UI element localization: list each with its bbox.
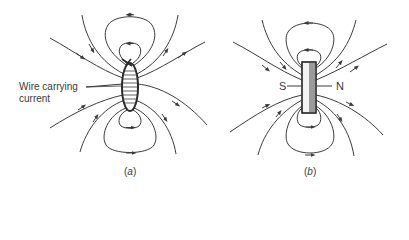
wire-label-line1: Wire carrying <box>19 81 78 93</box>
wire-label-line2: current <box>19 93 78 105</box>
caption-a: (a) <box>124 167 136 177</box>
wire-label: Wire carrying current <box>19 81 78 105</box>
caption-b-close: ) <box>313 166 316 177</box>
caption-b: (b) <box>304 167 316 177</box>
south-pole-label: S <box>279 81 286 92</box>
bar-magnet <box>302 62 316 113</box>
north-pole-label: N <box>336 81 344 92</box>
caption-a-close: ) <box>133 166 136 177</box>
